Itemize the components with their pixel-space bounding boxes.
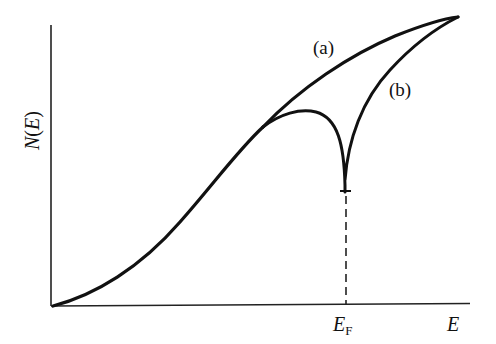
- curve-common-segment: [53, 127, 263, 306]
- y-label-main: N: [21, 137, 43, 150]
- x-axis: [51, 304, 470, 307]
- y-label-close-paren: ): [21, 111, 43, 118]
- curve-b-label: (b): [389, 80, 411, 99]
- dos-diagram: [0, 0, 496, 344]
- fermi-energy-subscript: F: [345, 323, 352, 338]
- y-label-var: E: [21, 118, 43, 130]
- curve-a-label: (a): [313, 38, 334, 57]
- fermi-energy-main: E: [333, 313, 345, 335]
- fermi-energy-label: EF: [333, 314, 352, 337]
- y-axis-label: N(E): [22, 111, 42, 150]
- y-label-open-paren: (: [21, 130, 43, 137]
- curve-b: [263, 17, 458, 192]
- x-axis-label: E: [447, 314, 459, 334]
